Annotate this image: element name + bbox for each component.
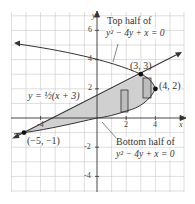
x-tick-neg4: -4 xyxy=(37,121,44,129)
parabola-arrowhead xyxy=(14,41,20,47)
y-tick-6: 6 xyxy=(88,26,92,34)
diagram-canvas xyxy=(0,0,195,204)
vertical-strip xyxy=(121,90,128,112)
point-c-label: (4, 2) xyxy=(159,81,181,91)
point-b-label: (3, 3) xyxy=(130,61,152,71)
y-tick-neg4: -4 xyxy=(84,172,91,180)
y-axis-label: y xyxy=(92,12,96,20)
point-neg5-neg1 xyxy=(22,130,27,135)
top-half-label-line1: Top half of xyxy=(107,16,151,26)
line-equation-label: y = ½(x + 3) xyxy=(28,91,80,101)
horizontal-strip xyxy=(143,78,151,98)
point-3-3 xyxy=(138,72,143,77)
x-tick-2: 2 xyxy=(124,121,128,129)
point-4-2 xyxy=(153,86,158,91)
y-tick-2: 2 xyxy=(88,84,92,92)
y-tick-neg2: -2 xyxy=(84,143,91,151)
y-tick-4: 4 xyxy=(88,55,92,63)
bottom-half-label-line2: y² − 4y + x = 0 xyxy=(116,150,174,160)
point-a-label: (−5, −1) xyxy=(27,136,60,146)
x-tick-4: 4 xyxy=(153,121,157,129)
x-axis-label: x xyxy=(179,121,183,129)
top-half-label-line2: y² − 4y + x = 0 xyxy=(106,29,164,39)
bottom-half-label-line1: Bottom half of xyxy=(116,137,175,147)
